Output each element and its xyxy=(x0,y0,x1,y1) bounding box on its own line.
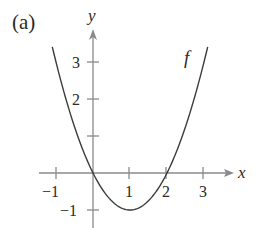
panel-label: (a) xyxy=(12,10,35,34)
y-tick-label: 3 xyxy=(72,54,80,71)
x-tick-label: 3 xyxy=(199,183,207,200)
y-axis-label: y xyxy=(86,6,96,25)
y-tick-label: −1 xyxy=(60,202,77,219)
x-tick-label: 1 xyxy=(125,183,133,200)
x-tick-label: −1 xyxy=(42,183,59,200)
x-axis-label: x xyxy=(237,163,246,182)
function-graph: (a) y x f −1 1 2 3 3 2 −1 xyxy=(0,0,258,228)
x-axis xyxy=(39,167,234,179)
y-axis xyxy=(87,29,99,228)
x-tick-label: 2 xyxy=(162,183,170,200)
curve-label-f: f xyxy=(184,47,192,68)
y-tick-label: 2 xyxy=(72,91,80,108)
